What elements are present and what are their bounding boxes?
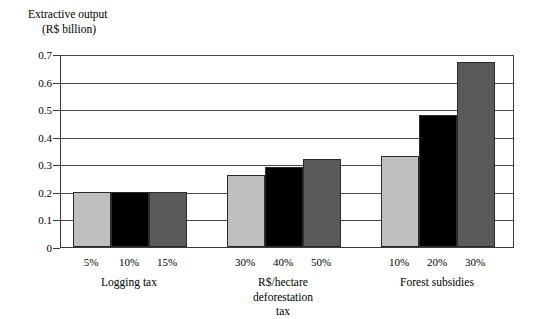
plot-area bbox=[60, 55, 514, 248]
x-axis-group-label-line: deforestation bbox=[253, 290, 313, 305]
gridline bbox=[61, 110, 513, 111]
x-axis-group-label-line: tax bbox=[253, 304, 313, 319]
x-axis-tick-label: 40% bbox=[273, 256, 293, 268]
y-axis-tick-label: 0.3 bbox=[20, 159, 52, 171]
bar bbox=[419, 115, 457, 247]
x-axis-tick-label: 50% bbox=[311, 256, 331, 268]
y-axis-tick-mark bbox=[53, 55, 60, 56]
y-axis-tick-label: 0.4 bbox=[20, 132, 52, 144]
y-axis-tick-mark bbox=[53, 110, 60, 111]
y-axis-tick-mark bbox=[53, 193, 60, 194]
bar bbox=[303, 159, 341, 247]
x-axis-tick-label: 10% bbox=[119, 256, 139, 268]
y-axis-tick-label: 0.7 bbox=[20, 49, 52, 61]
y-axis-tick-mark bbox=[53, 165, 60, 166]
x-axis-group-label-line: Logging tax bbox=[101, 275, 157, 290]
bar bbox=[111, 192, 149, 247]
y-axis-tick-mark bbox=[53, 83, 60, 84]
gridline bbox=[61, 55, 513, 56]
x-axis-group-label-line: Forest subsidies bbox=[400, 275, 474, 290]
y-axis-tick-label: 0.5 bbox=[20, 104, 52, 116]
bar bbox=[381, 156, 419, 247]
y-axis-tick-label: 0 bbox=[20, 242, 52, 254]
y-axis-tick-label: 0.1 bbox=[20, 214, 52, 226]
y-axis-tick-mark bbox=[53, 138, 60, 139]
x-axis-tick-label: 30% bbox=[465, 256, 485, 268]
y-axis-tick-mark bbox=[53, 248, 60, 249]
y-axis-tick-label: 0.6 bbox=[20, 77, 52, 89]
bar bbox=[227, 175, 265, 247]
x-axis-tick-label: 5% bbox=[84, 256, 99, 268]
x-axis-tick-label: 15% bbox=[157, 256, 177, 268]
bar bbox=[265, 167, 303, 247]
x-axis-tick-label: 30% bbox=[235, 256, 255, 268]
y-axis-labels: 00.10.20.30.40.50.60.7 bbox=[0, 0, 52, 319]
x-axis-group-label: R$/hectaredeforestationtax bbox=[253, 275, 313, 319]
y-axis-tick-label: 0.2 bbox=[20, 187, 52, 199]
x-axis-tick-label: 20% bbox=[427, 256, 447, 268]
gridline bbox=[61, 83, 513, 84]
x-axis-group-label: Forest subsidies bbox=[400, 275, 474, 290]
x-axis-tick-label: 10% bbox=[389, 256, 409, 268]
bar bbox=[149, 192, 187, 247]
bar bbox=[457, 62, 495, 247]
y-axis-tick-mark bbox=[53, 220, 60, 221]
bar-chart-figure: Extractive output (R$ billion) 00.10.20.… bbox=[0, 0, 538, 319]
x-axis-group-label: Logging tax bbox=[101, 275, 157, 290]
x-axis-group-label-line: R$/hectare bbox=[253, 275, 313, 290]
bar bbox=[73, 192, 111, 247]
